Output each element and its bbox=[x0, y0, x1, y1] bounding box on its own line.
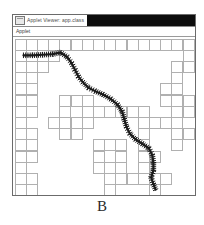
window-titlebar[interactable]: Applet Viewer: app.class bbox=[13, 15, 195, 27]
maze-grid-canvas bbox=[13, 37, 195, 196]
applet-window-icon bbox=[15, 16, 25, 25]
window-menubar[interactable]: Applet bbox=[13, 27, 195, 37]
applet-viewer-window: Applet Viewer: app.class Applet bbox=[12, 14, 196, 196]
maze-canvas-wrap bbox=[13, 37, 195, 196]
menu-item-applet[interactable]: Applet bbox=[13, 28, 30, 35]
figure-panel: Applet Viewer: app.class Applet B bbox=[0, 0, 204, 225]
window-title: Applet Viewer: app.class bbox=[27, 17, 87, 24]
figure-caption: B bbox=[0, 198, 204, 215]
titlebar-fill bbox=[87, 15, 195, 26]
